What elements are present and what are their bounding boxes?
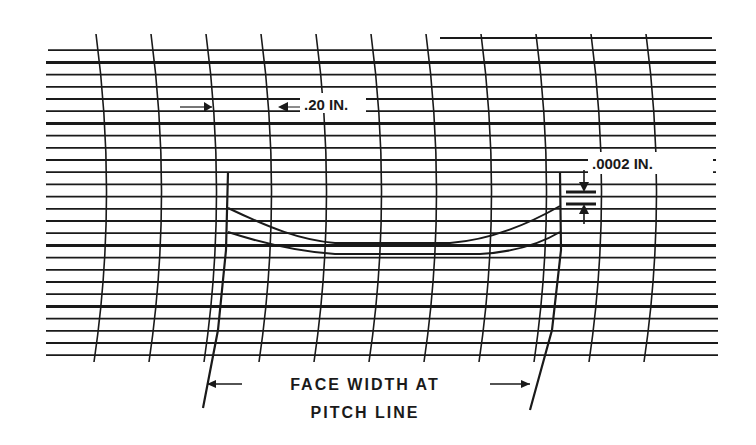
deviation-label: .0002 IN. xyxy=(592,155,653,172)
spacing-label: .20 IN. xyxy=(304,96,348,113)
spacing-dimension: .20 IN. xyxy=(180,93,366,113)
face-width-label-line1: FACE WIDTH AT xyxy=(290,376,440,393)
face-boundary-left xyxy=(203,172,228,408)
contact-trace-upper xyxy=(228,206,560,243)
face-width-dimension: FACE WIDTH AT PITCH LINE xyxy=(207,376,530,421)
chart-paper-diagram: .20 IN. .0002 IN. FACE WIDTH AT PITCH LI… xyxy=(0,0,756,445)
vertical-arc-grid-lines xyxy=(94,34,657,362)
deviation-dimension: .0002 IN. xyxy=(566,152,713,224)
face-width-label-line2: PITCH LINE xyxy=(311,404,420,421)
